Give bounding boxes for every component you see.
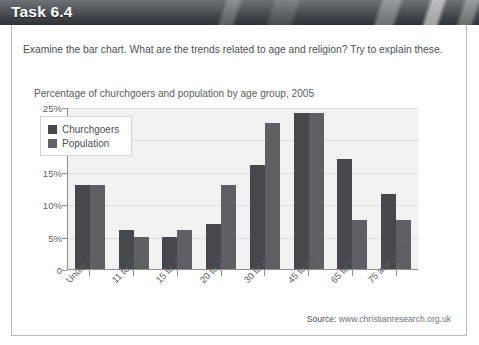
legend-label: Population: [62, 138, 109, 149]
legend-item: Population: [48, 136, 119, 150]
bar-group: [156, 108, 200, 269]
bar-population: [309, 113, 324, 269]
bar-churchgoers: [294, 113, 309, 269]
x-axis-tick: [221, 270, 222, 276]
y-axis-tick-label: 10%: [28, 200, 62, 211]
bar-group: [374, 108, 418, 269]
legend-label: Churchgoers: [62, 124, 119, 135]
bar-churchgoers: [337, 159, 352, 269]
x-axis-tick: [396, 270, 397, 276]
y-axis-tick-label: 25%: [28, 103, 62, 114]
bar-group: [331, 108, 375, 269]
chart-title: Percentage of churchgoers and population…: [34, 88, 314, 99]
bar-churchgoers: [250, 165, 265, 269]
bar-group: [287, 108, 331, 269]
legend-item: Churchgoers: [48, 122, 119, 136]
legend-swatch-icon: [48, 139, 57, 148]
page-title: Task 6.4: [11, 3, 73, 21]
x-axis-tick: [89, 270, 90, 276]
worksheet-page: Task 6.4 Examine the bar chart. What are…: [0, 0, 479, 345]
y-axis-tick-label: 5%: [28, 232, 62, 243]
bar-chart: 25%20%15%10%5%0 ChurchgoersPopulation Un…: [24, 108, 444, 328]
bar-population: [265, 123, 280, 269]
y-axis-tick: [62, 270, 67, 271]
task-header-band: Task 6.4: [0, 0, 479, 25]
x-axis-tick: [177, 270, 178, 276]
bar-group: [243, 108, 287, 269]
x-axis-tick: [308, 270, 309, 276]
x-axis-tick: [352, 270, 353, 276]
x-axis-tick: [133, 270, 134, 276]
source-attribution: Source: www.christianresearch.org.uk: [307, 314, 451, 324]
task-prompt-text: Examine the bar chart. What are the tren…: [23, 41, 443, 59]
source-url: www.christianresearch.org.uk: [339, 314, 451, 324]
y-axis-tick-label: 0: [28, 265, 62, 276]
x-axis-tick: [264, 270, 265, 276]
source-label: Source:: [307, 314, 337, 324]
bar-group: [199, 108, 243, 269]
legend-swatch-icon: [48, 125, 57, 134]
y-axis-tick-label: 15%: [28, 167, 62, 178]
chart-legend: ChurchgoersPopulation: [40, 116, 132, 156]
